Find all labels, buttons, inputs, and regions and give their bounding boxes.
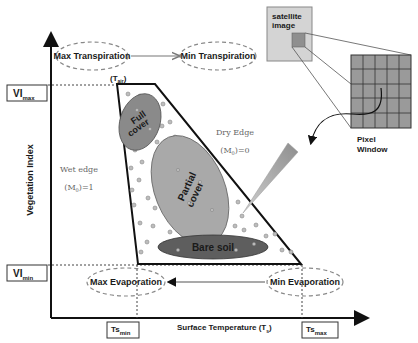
pixel-selection: [292, 33, 305, 47]
dry-edge-label: Dry Edge: [216, 128, 254, 137]
max-evaporation-label: Max Evaporation: [90, 277, 162, 287]
svg-text:image: image: [272, 21, 296, 30]
vi-max-label: VImax: [7, 85, 47, 101]
ts-max-label: Tsmax: [302, 322, 338, 338]
vi-min-label: VImin: [7, 265, 47, 281]
dry-edge-value: (M0)=0: [220, 146, 249, 156]
svg-text:satellite: satellite: [272, 12, 302, 21]
y-axis-label: Vegetation Index: [25, 144, 35, 216]
top-transpiration-flow: Max Transpiration Min Transpiration: [53, 42, 256, 70]
min-evaporation-label: Min Evaporation: [270, 277, 340, 287]
triangle-method-diagram: VImax VImin Vegetation Index Tsmin Tsmax…: [0, 0, 418, 343]
x-axis-label: Surface Temperature (Ts): [177, 323, 272, 334]
bottom-evaporation-flow: Max Evaporation Min Evaporation: [87, 268, 343, 296]
min-transpiration-label: Min Transpiration: [180, 51, 255, 61]
svg-text:Bare soil: Bare soil: [192, 242, 234, 253]
max-transpiration-label: Max Transpiration: [53, 51, 130, 61]
ts-min-label: Tsmin: [107, 322, 139, 338]
wet-edge-value: (M0)=1: [64, 183, 93, 193]
wet-edge-label: Wet edge: [60, 165, 98, 174]
t-air-label: (Tair): [110, 74, 127, 84]
pixel-window-label-1: Pixel: [357, 135, 376, 144]
bare-soil-region: Bare soil: [158, 235, 268, 259]
pixel-projection-beam: [243, 143, 298, 213]
pixel-window-label-2: Window: [357, 145, 388, 154]
